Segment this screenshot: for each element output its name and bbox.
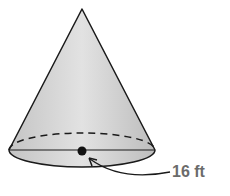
center-point [78,147,87,156]
cone-diagram: 16 ft [0,0,230,196]
cone-body [9,9,155,167]
radius-label: 16 ft [172,163,206,180]
